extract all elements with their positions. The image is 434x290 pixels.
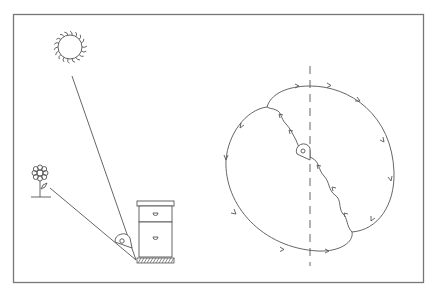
ground-hatch — [137, 258, 174, 263]
bee-marker-icon — [296, 144, 310, 160]
flower-icon — [31, 165, 51, 197]
diagram-frame — [14, 15, 424, 283]
sun-icon — [54, 31, 87, 63]
angle-marker-icon — [115, 234, 132, 248]
sun-direction-line — [72, 76, 136, 260]
waggle-dance-diagram — [0, 0, 434, 290]
beehive-icon — [137, 201, 174, 257]
